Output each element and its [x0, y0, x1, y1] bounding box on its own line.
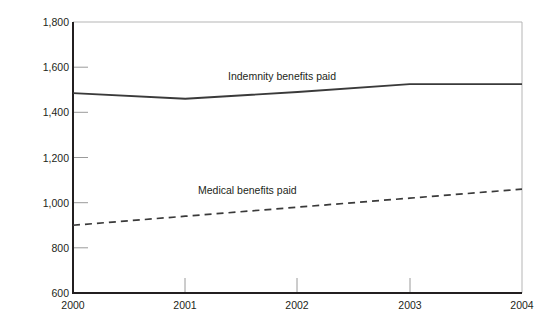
series-line-medical	[73, 189, 522, 225]
series-line-indemnity	[73, 84, 522, 99]
series-label-indemnity: Indemnity benefits paid	[228, 70, 336, 82]
x-axis-ticks	[185, 278, 410, 292]
plot-area	[0, 0, 546, 329]
series-label-medical: Medical benefits paid	[198, 184, 297, 196]
chart-container: Millions of dollars 1,800 1,600 1,400 1,…	[0, 0, 546, 329]
